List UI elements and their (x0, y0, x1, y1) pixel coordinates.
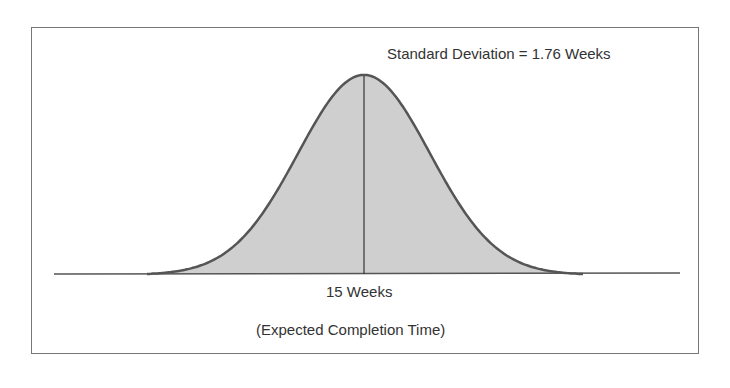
curve-area (147, 75, 583, 274)
mean-label: 15 Weeks (326, 283, 392, 300)
std-dev-annotation: Standard Deviation = 1.76 Weeks (387, 45, 611, 62)
x-axis-caption: (Expected Completion Time) (256, 321, 445, 338)
